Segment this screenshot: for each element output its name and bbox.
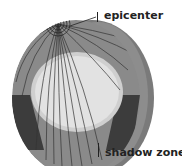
- shadow-zone-label: shadow zone: [105, 146, 182, 159]
- epicenter-label: epicenter: [104, 9, 163, 22]
- earth-seismic-diagram: [0, 0, 182, 166]
- shadow-zone-tick: [98, 143, 99, 157]
- epicenter-tick: [97, 12, 98, 22]
